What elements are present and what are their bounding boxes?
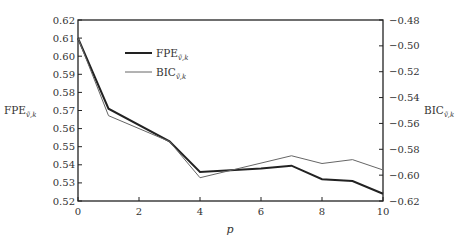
x-tick-label: 10 (377, 206, 390, 217)
x-tick-label: 4 (197, 206, 203, 217)
y-right-tick-label: −0.48 (389, 15, 420, 26)
y-tick-label: 0.54 (53, 159, 75, 170)
plot-frame (78, 20, 383, 201)
y-axis-label-right: BICṽ,k (424, 104, 454, 119)
x-tick-label: 0 (75, 206, 81, 217)
legend-label-fpe: FPEṽ,k (156, 47, 188, 62)
y-tick-label: 0.62 (53, 15, 75, 26)
series-line (78, 38, 383, 178)
y-axis-label-left: FPEṽ,k (4, 104, 36, 119)
y-tick-label: 0.56 (53, 123, 75, 134)
x-tick-label: 2 (136, 206, 142, 217)
y-tick-label: 0.60 (53, 51, 75, 62)
x-tick-label: 6 (258, 206, 264, 217)
y-right-tick-label: −0.60 (389, 170, 420, 181)
x-tick-label: 8 (319, 206, 325, 217)
y-right-tick-label: −0.56 (389, 118, 420, 129)
y-tick-label: 0.61 (53, 33, 75, 44)
y-right-tick-label: −0.52 (389, 66, 420, 77)
legend-label-bic: BICṽ,k (156, 66, 186, 81)
y-right-tick-label: −0.50 (389, 40, 420, 51)
y-tick-label: 0.52 (53, 196, 75, 207)
y-tick-label: 0.59 (53, 69, 75, 80)
y-tick-label: 0.53 (53, 177, 75, 188)
x-axis-label: p (226, 223, 233, 236)
y-right-tick-label: −0.62 (389, 196, 420, 207)
y-right-tick-label: −0.58 (389, 144, 420, 155)
y-tick-label: 0.55 (53, 141, 75, 152)
y-tick-label: 0.58 (53, 87, 75, 98)
chart: 02468100.520.530.540.550.560.570.580.590… (0, 0, 467, 246)
y-tick-label: 0.57 (53, 105, 75, 116)
y-right-tick-label: −0.54 (389, 92, 420, 103)
